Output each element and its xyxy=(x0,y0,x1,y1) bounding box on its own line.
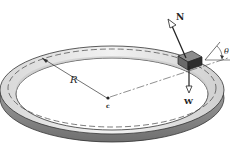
normal-force-vector: N xyxy=(168,12,186,58)
normal-arrowhead-icon xyxy=(168,19,176,28)
center-point: c xyxy=(106,96,110,109)
center-label: c xyxy=(106,102,110,109)
banked-track-diagram: R c N W θ xyxy=(0,0,236,146)
weight-label: W xyxy=(183,96,194,106)
bank-angle-indicator: θ xyxy=(205,42,230,60)
bank-angle-label: θ xyxy=(224,47,229,56)
normal-force-label: N xyxy=(176,12,184,22)
radius-label: R xyxy=(69,74,78,85)
